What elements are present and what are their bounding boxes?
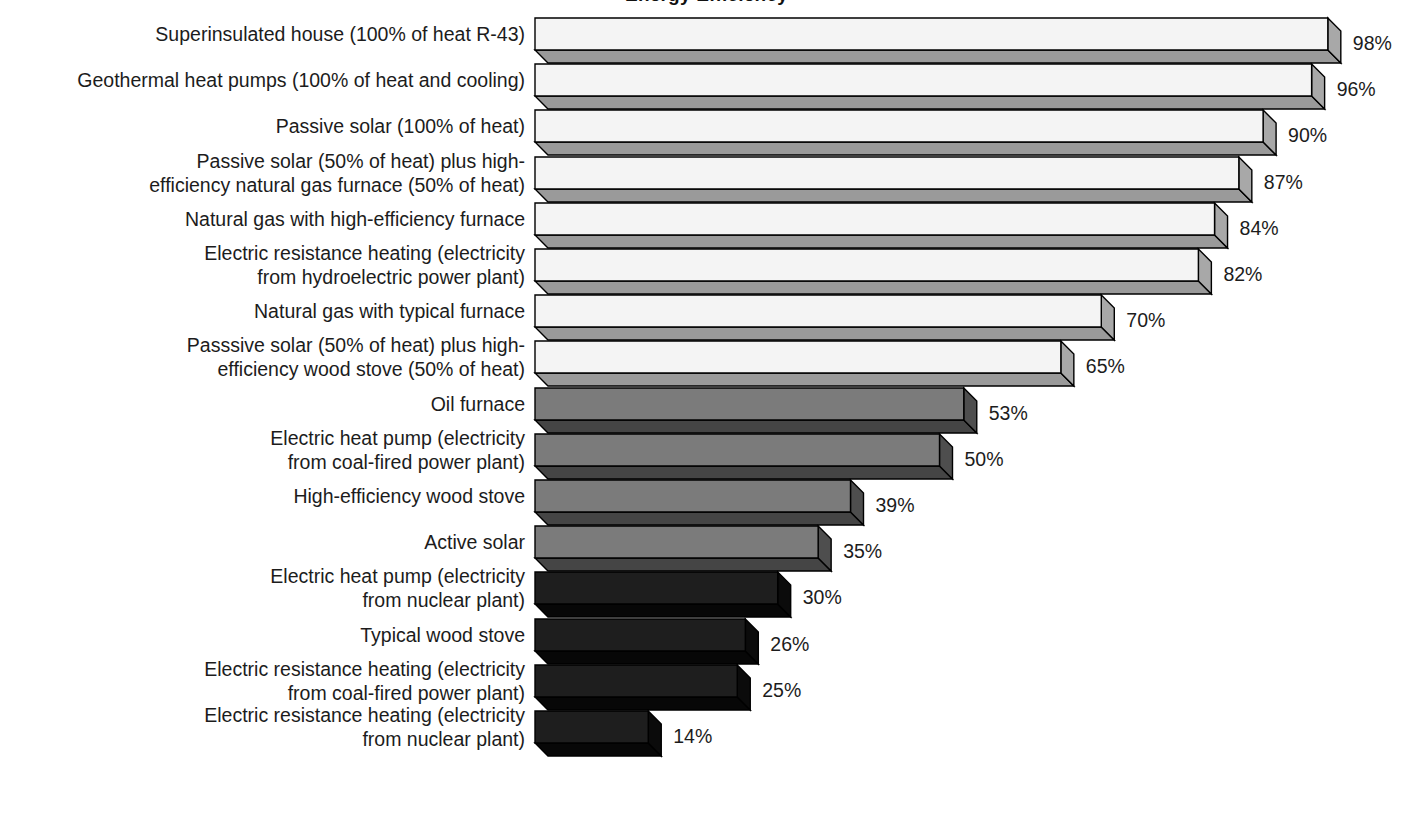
bar-value-label: 53% xyxy=(989,403,1028,423)
bar-3d xyxy=(535,110,1280,156)
bar-row: Passsive solar (50% of heat) plus high- … xyxy=(0,341,1413,387)
bar-category-label: Electric resistance heating (electricity… xyxy=(0,703,525,751)
bar-value-label: 87% xyxy=(1264,172,1303,192)
bar-3d xyxy=(535,249,1215,295)
bar-category-label: High-efficiency wood stove xyxy=(0,484,525,508)
bar-value-label: 82% xyxy=(1223,264,1262,284)
bar-value-label: 98% xyxy=(1353,33,1392,53)
bar-value-label: 65% xyxy=(1086,356,1125,376)
bar-3d xyxy=(535,526,835,572)
bar-value-label: 25% xyxy=(762,680,801,700)
bar-3d xyxy=(535,619,762,665)
bar-value-label: 30% xyxy=(803,587,842,607)
bar-category-label: Oil furnace xyxy=(0,392,525,416)
bar-category-label: Geothermal heat pumps (100% of heat and … xyxy=(0,68,525,92)
bar-value-label: 84% xyxy=(1240,218,1279,238)
bar-row: Passive solar (50% of heat) plus high- e… xyxy=(0,157,1413,203)
bar-value-label: 26% xyxy=(770,634,809,654)
bar-3d xyxy=(535,203,1232,249)
bar-category-label: Active solar xyxy=(0,530,525,554)
bar-category-label: Natural gas with high-efficiency furnace xyxy=(0,207,525,231)
bar-value-label: 35% xyxy=(843,541,882,561)
bar-category-label: Electric resistance heating (electricity… xyxy=(0,241,525,289)
bar-value-label: 70% xyxy=(1126,310,1165,330)
bar-3d xyxy=(535,388,981,434)
bar-value-label: 14% xyxy=(673,726,712,746)
bar-category-label: Natural gas with typical furnace xyxy=(0,299,525,323)
bar-row: Electric resistance heating (electricity… xyxy=(0,249,1413,295)
bar-category-label: Passsive solar (50% of heat) plus high- … xyxy=(0,333,525,381)
bar-3d xyxy=(535,572,795,618)
bar-3d xyxy=(535,711,665,757)
bar-3d xyxy=(535,64,1329,110)
bar-category-label: Passive solar (50% of heat) plus high- e… xyxy=(0,149,525,197)
bar-3d xyxy=(535,295,1118,341)
bar-row: High-efficiency wood stove39% xyxy=(0,480,1413,526)
bar-row: Geothermal heat pumps (100% of heat and … xyxy=(0,64,1413,110)
bar-category-label: Electric resistance heating (electricity… xyxy=(0,657,525,705)
bar-3d xyxy=(535,157,1256,203)
bar-value-label: 50% xyxy=(965,449,1004,469)
bar-category-label: Typical wood stove xyxy=(0,623,525,647)
bar-3d xyxy=(535,341,1078,387)
bar-row: Electric heat pump (electricity from nuc… xyxy=(0,572,1413,618)
bar-3d xyxy=(535,480,868,526)
energy-efficiency-chart: Energy Efficiency Superinsulated house (… xyxy=(0,0,1413,821)
bar-category-label: Electric heat pump (electricity from coa… xyxy=(0,426,525,474)
bar-3d xyxy=(535,434,957,480)
bar-value-label: 39% xyxy=(876,495,915,515)
bar-rows-container: Superinsulated house (100% of heat R-43)… xyxy=(0,0,1413,821)
bar-3d xyxy=(535,18,1345,64)
bar-value-label: 96% xyxy=(1337,79,1376,99)
bar-value-label: 90% xyxy=(1288,125,1327,145)
bar-row: Superinsulated house (100% of heat R-43)… xyxy=(0,18,1413,64)
bar-category-label: Superinsulated house (100% of heat R-43) xyxy=(0,22,525,46)
bar-category-label: Passive solar (100% of heat) xyxy=(0,114,525,138)
bar-3d xyxy=(535,665,754,711)
bar-category-label: Electric heat pump (electricity from nuc… xyxy=(0,564,525,612)
bar-row: Electric heat pump (electricity from coa… xyxy=(0,434,1413,480)
bar-row: Electric resistance heating (electricity… xyxy=(0,711,1413,757)
